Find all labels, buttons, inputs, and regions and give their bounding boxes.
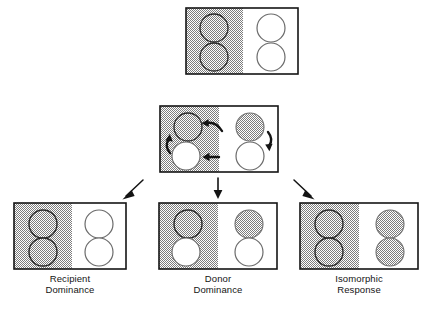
caption-donor-dominance: Donor Dominance	[159, 274, 277, 295]
node-interaction-circle-left-bottom	[172, 142, 200, 170]
node-recipient-circle-left-top	[29, 210, 57, 238]
node-interaction-circle-left-top	[174, 113, 202, 141]
transplant-outcome-diagram: Recipient Dominance Donor Dominance Isom…	[0, 0, 438, 310]
node-donor-circle-left-bottom	[172, 238, 200, 266]
node-parent	[186, 8, 298, 74]
node-recipient-dominance	[14, 203, 126, 269]
connector-to-recipient-dominance	[122, 180, 143, 200]
node-isomorphic-circle-right-top	[376, 210, 404, 238]
node-recipient-circle-right-top	[85, 210, 113, 238]
node-donor-circle-right-bottom	[235, 238, 263, 266]
node-isomorphic-response	[300, 203, 418, 269]
connector-to-isomorphic-response	[294, 180, 315, 200]
node-interaction	[160, 106, 278, 172]
node-isomorphic-circle-left-bottom	[315, 238, 343, 266]
caption-isomorphic-response: Isomorphic Response	[300, 274, 418, 295]
node-interaction-circle-right-top	[236, 113, 264, 141]
node-parent-circle-left-top	[200, 14, 228, 42]
node-recipient-circle-left-bottom	[29, 238, 57, 266]
node-parent-circle-right-top	[257, 14, 285, 42]
node-recipient-circle-right-bottom	[85, 238, 113, 266]
node-donor-dominance	[159, 203, 277, 269]
node-interaction-circle-right-bottom	[236, 142, 264, 170]
node-parent-circle-left-bottom	[200, 43, 228, 71]
node-parent-circle-right-bottom	[257, 43, 285, 71]
diagram-canvas	[0, 0, 438, 310]
caption-recipient-dominance: Recipient Dominance	[14, 274, 126, 295]
node-donor-circle-right-top	[235, 210, 263, 238]
node-isomorphic-circle-left-top	[315, 210, 343, 238]
node-donor-circle-left-top	[174, 210, 202, 238]
node-isomorphic-circle-right-bottom	[376, 238, 404, 266]
connector-to-donor-dominance	[214, 178, 223, 199]
